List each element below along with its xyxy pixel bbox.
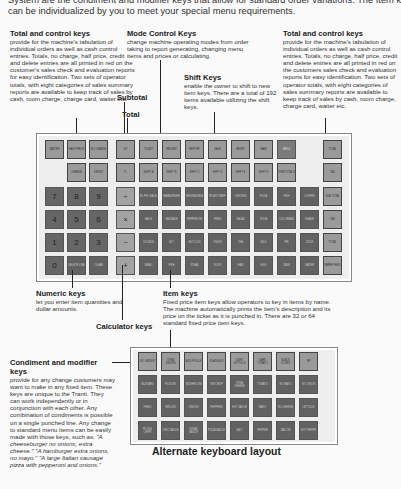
- item-key[interactable]: DOUBLE: [139, 233, 158, 252]
- key-shift-e[interactable]: SHIFT E: [231, 163, 250, 182]
- condiment-key[interactable]: MAYO: [253, 398, 272, 417]
- condiment-key[interactable]: PLAIN BUN: [207, 352, 226, 371]
- key-3[interactable]: 3: [89, 233, 108, 252]
- item-key[interactable]: FISH: [162, 256, 181, 275]
- condiment-key[interactable]: ADD PICKLE: [184, 352, 203, 371]
- key-subtotal[interactable]: S/T: [116, 140, 135, 159]
- key-item-totals[interactable]: ITEM TOTALS: [277, 163, 296, 182]
- item-key[interactable]: EGG: [254, 256, 273, 275]
- item-key[interactable]: ONION: [208, 233, 227, 252]
- key-tax[interactable]: TAX: [323, 163, 342, 182]
- item-key[interactable]: FISH: [277, 187, 296, 206]
- key-4[interactable]: 4: [45, 210, 64, 229]
- key-main[interactable]: MAIN: [254, 140, 273, 159]
- key-tax-2[interactable]: TAX: [323, 210, 342, 229]
- key-no-charge[interactable]: NO CHARGE: [89, 140, 108, 159]
- key-reset[interactable]: RESET: [231, 140, 250, 159]
- item-key[interactable]: MILK: [254, 233, 273, 252]
- item-key[interactable]: HAMBURGER: [162, 187, 181, 206]
- condiment-key[interactable]: XTRA ONIONS: [161, 352, 180, 371]
- condiment-key[interactable]: PIZZA SAUCE: [207, 421, 226, 440]
- key-menu[interactable]: MENU: [277, 140, 296, 159]
- item-key[interactable]: PIE: [277, 233, 296, 252]
- item-key[interactable]: PIZZA: [254, 187, 273, 206]
- item-key[interactable]: BLT: [162, 233, 181, 252]
- key-total-2[interactable]: TOTAL: [323, 233, 342, 252]
- key-5[interactable]: 5: [67, 210, 86, 229]
- condiment-key[interactable]: STEAK SAUCE: [184, 421, 203, 440]
- condiment-key[interactable]: CHILI SAUCE: [161, 421, 180, 440]
- key-ticket[interactable]: TICKET: [139, 140, 158, 159]
- item-key[interactable]: CHICKEN: [231, 187, 250, 206]
- item-key[interactable]: SHAKE: [300, 210, 319, 229]
- item-key[interactable]: WATER: [300, 256, 319, 275]
- item-key[interactable]: HOT DOG: [185, 233, 204, 252]
- key-charge[interactable]: CHARGE: [67, 163, 86, 182]
- item-key[interactable]: JUICE: [300, 233, 319, 252]
- item-key[interactable]: HAM: [231, 256, 250, 275]
- item-key[interactable]: ROAST BEEF: [208, 187, 227, 206]
- key-2[interactable]: 2: [67, 233, 86, 252]
- condiment-key[interactable]: KETCHUP: [207, 375, 226, 394]
- condiment-key[interactable]: PEPPER: [253, 421, 272, 440]
- item-key[interactable]: STEAK: [185, 256, 204, 275]
- item-key[interactable]: BL PR / EACH: [139, 187, 158, 206]
- condiment-key[interactable]: NO CHEESE: [276, 398, 295, 417]
- condiment-key[interactable]: PICKLES: [161, 375, 180, 394]
- key-1[interactable]: 1: [45, 233, 64, 252]
- key-credit[interactable]: CREDIT: [89, 163, 108, 182]
- key-shift-d[interactable]: SHIFT D: [208, 163, 227, 182]
- key-6[interactable]: 6: [89, 210, 108, 229]
- item-key[interactable]: ICE CREAM: [277, 210, 296, 229]
- key-shift-f[interactable]: SHIFT F: [254, 163, 273, 182]
- condiment-key[interactable]: HOT SAUCE: [230, 398, 249, 417]
- key-shift-a[interactable]: SHIFT A: [139, 163, 158, 182]
- key-shift-b[interactable]: SHIFT B: [162, 163, 181, 182]
- key-total[interactable]: TOTAL: [323, 140, 342, 159]
- item-key[interactable]: SMALL: [139, 256, 158, 275]
- condiment-key[interactable]: ONIONS: [184, 398, 203, 417]
- item-key[interactable]: COFFEE: [300, 187, 319, 206]
- condiment-key[interactable]: TOMATO: [253, 375, 272, 394]
- item-key[interactable]: FRIES: [208, 210, 227, 229]
- item-key[interactable]: CAKE: [277, 256, 296, 275]
- condiment-key[interactable]: MUSHROOM: [184, 375, 203, 394]
- item-key[interactable]: SAUSAGE: [162, 210, 181, 229]
- key-review[interactable]: REVIEW: [162, 140, 181, 159]
- condiment-key[interactable]: NO ONION: [299, 375, 318, 394]
- key-multiply[interactable]: ×: [116, 210, 135, 229]
- condiment-key[interactable]: LETTUCE: [299, 398, 318, 417]
- key-shift-c[interactable]: SHIFT C: [185, 163, 204, 182]
- item-key[interactable]: SALAD: [231, 210, 250, 229]
- condiment-key[interactable]: HOT PEPPR: [299, 421, 318, 440]
- condiment-key[interactable]: XTRA CHEESE: [230, 375, 249, 394]
- key-plus[interactable]: +: [116, 256, 135, 275]
- condiment-key[interactable]: BACON: [276, 421, 295, 440]
- condiment-key[interactable]: FRIED: [138, 398, 157, 417]
- key-minus[interactable]: −: [116, 233, 135, 252]
- item-key[interactable]: EACH: [139, 210, 158, 229]
- key-8[interactable]: 8: [67, 187, 86, 206]
- item-key[interactable]: PEPPERONI: [185, 210, 204, 229]
- item-key[interactable]: SODA: [254, 210, 273, 229]
- key-0[interactable]: 0: [45, 256, 64, 275]
- condiment-key[interactable]: GRILLED: [161, 398, 180, 417]
- condiment-key[interactable]: LIGHT LETTUCE: [230, 352, 249, 371]
- condiment-key[interactable]: PICKLE CHIPS: [138, 421, 157, 440]
- condiment-key[interactable]: NO MAYO: [276, 375, 295, 394]
- key-sub-total[interactable]: SUB TOTAL: [323, 187, 342, 206]
- key-delete-line[interactable]: DELETE LINE: [67, 256, 86, 275]
- condiment-key[interactable]: MUSTARD: [138, 375, 157, 394]
- key-divide[interactable]: ÷: [116, 187, 135, 206]
- condiment-key[interactable]: NO CATSUP: [138, 352, 157, 371]
- key-clear[interactable]: CLEAR: [89, 256, 108, 275]
- key-waiter[interactable]: WAITER: [45, 140, 64, 159]
- key-paper-feed[interactable]: PAPER FEED: [323, 256, 342, 275]
- key-7[interactable]: 7: [45, 187, 64, 206]
- key-9[interactable]: 9: [89, 187, 108, 206]
- item-key[interactable]: TEA: [231, 233, 250, 252]
- key-report[interactable]: REPORT: [185, 140, 204, 159]
- condiment-key[interactable]: NP: [299, 352, 318, 371]
- key-total-tl[interactable]: TL: [116, 163, 135, 182]
- key-half-price[interactable]: HALF PRICE: [67, 140, 86, 159]
